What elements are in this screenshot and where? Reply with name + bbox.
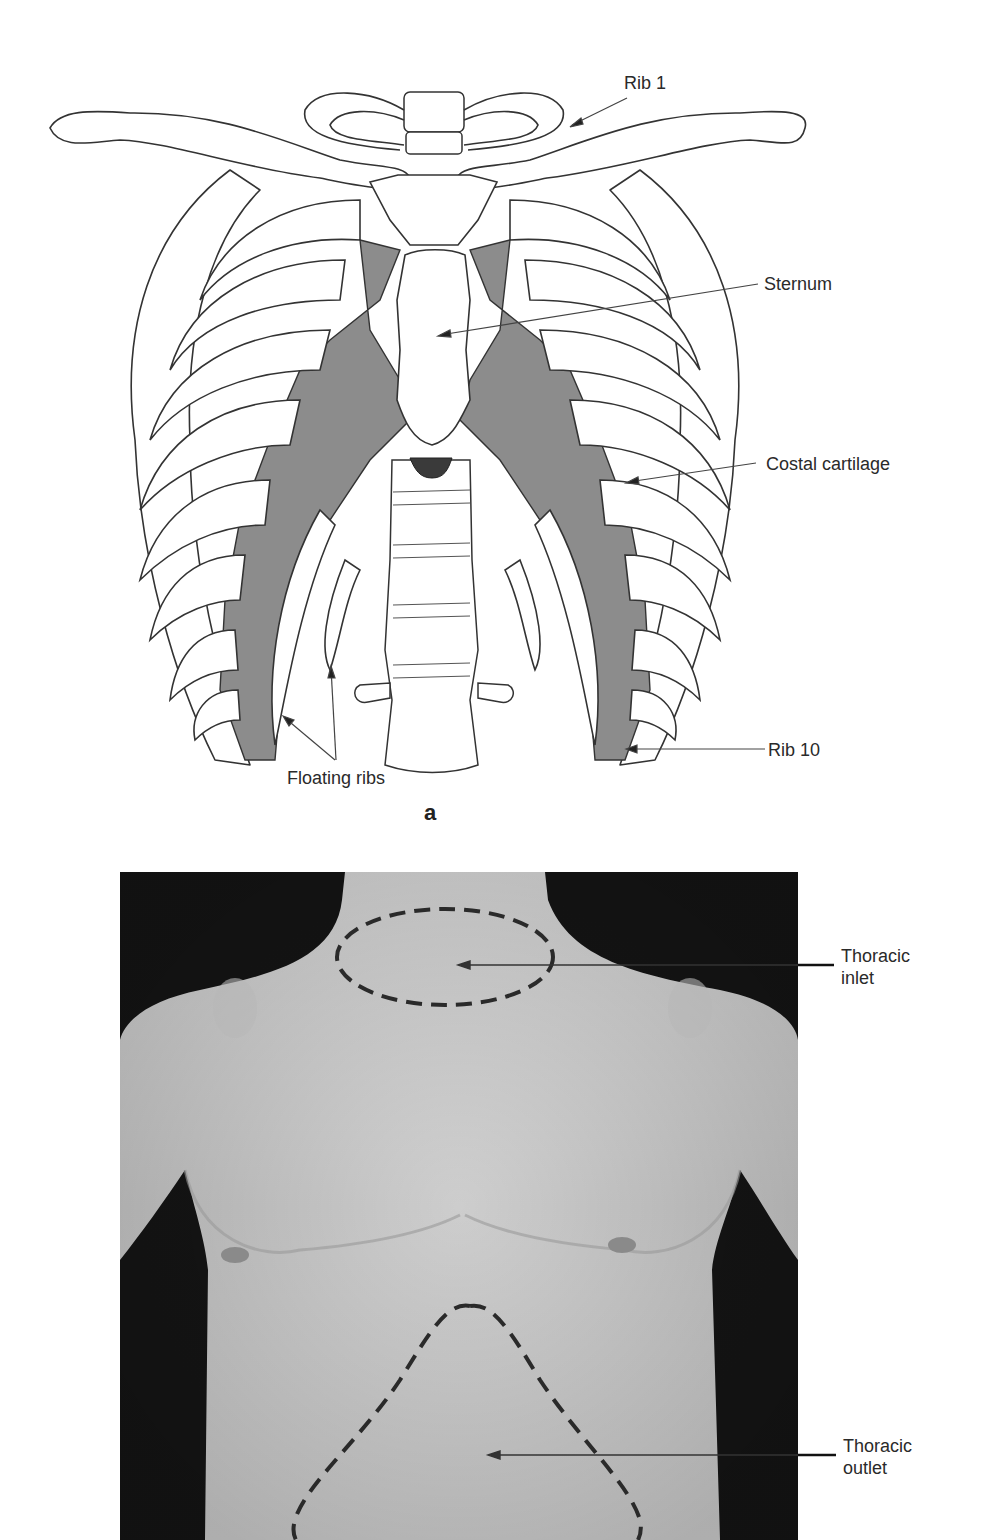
- rib1-left: [305, 93, 404, 150]
- label-thoracic-inlet: Thoracic inlet: [841, 945, 961, 989]
- label-thoracic-inlet-line1: Thoracic: [841, 945, 961, 967]
- label-floating-ribs: Floating ribs: [287, 767, 385, 789]
- torso-silhouette: [120, 872, 798, 1540]
- label-thoracic-inlet-line2: inlet: [841, 967, 961, 989]
- floating-rib-left-2: [325, 560, 360, 670]
- photo-background: [120, 872, 798, 1540]
- label-thoracic-outlet-line1: Thoracic: [843, 1435, 963, 1457]
- label-costal-cartilage: Costal cartilage: [766, 453, 890, 475]
- sternal-body: [397, 250, 470, 445]
- rib1-right: [464, 93, 563, 150]
- rib-cage-diagram: [0, 0, 993, 830]
- label-sternum: Sternum: [764, 273, 832, 295]
- floating-rib-right-2: [505, 560, 540, 670]
- manubrium: [370, 175, 497, 245]
- label-thoracic-outlet: Thoracic outlet: [843, 1435, 963, 1479]
- nipple-left: [221, 1247, 249, 1263]
- thoracic-outlet-outline: [293, 1306, 640, 1540]
- thoracic-inlet-outline: [337, 909, 553, 1005]
- vertebra-top: [404, 92, 464, 132]
- label-rib-1: Rib 1: [624, 72, 666, 94]
- label-thoracic-outlet-line2: outlet: [843, 1457, 963, 1479]
- label-rib-10: Rib 10: [768, 739, 820, 761]
- panel-letter-a: a: [424, 800, 436, 826]
- nipple-right: [608, 1237, 636, 1253]
